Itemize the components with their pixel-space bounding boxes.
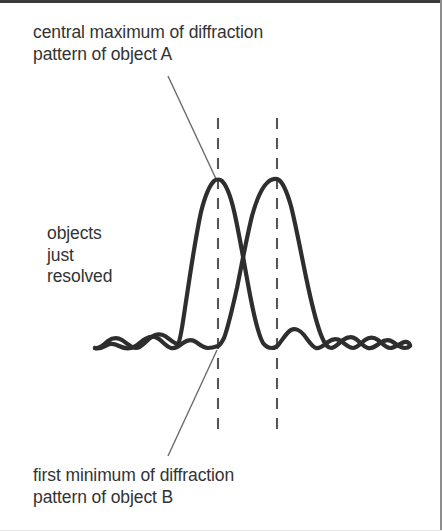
diffraction-resolution-figure: central maximum of diffraction pattern o…	[0, 0, 442, 531]
annotation-label-objects-just-resolved: objects just resolved	[47, 223, 112, 288]
annotation-label-central-maximum: central maximum of diffraction pattern o…	[33, 22, 263, 65]
curve-object-A	[95, 180, 410, 349]
curve-object-B	[95, 179, 410, 349]
leader-line-top-label	[168, 76, 217, 181]
annotation-label-first-minimum: first minimum of diffraction pattern of …	[33, 465, 234, 508]
leader-line-bottom-label	[168, 350, 217, 456]
